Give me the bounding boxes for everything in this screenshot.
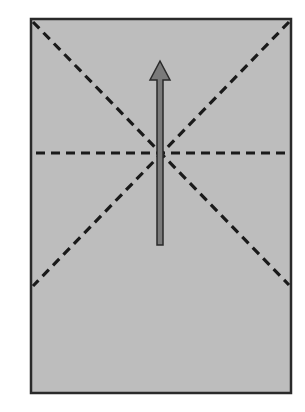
fold-diagram <box>0 0 305 412</box>
